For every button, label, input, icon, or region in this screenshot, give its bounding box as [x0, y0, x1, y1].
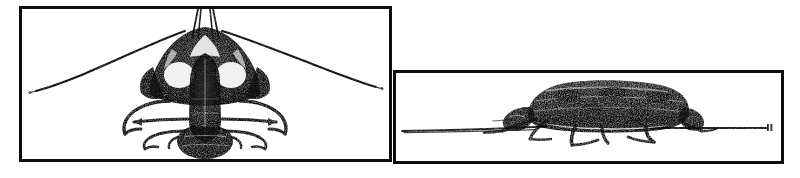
- elytra-lateral-group: [528, 80, 689, 132]
- panel-dorsal-view: Dorsal view panel: [19, 6, 392, 162]
- beetle-lateral-illustration: [396, 73, 781, 161]
- beetle-dorsal-illustration: [22, 9, 389, 159]
- panel-lateral-label: Lateral view panel: [396, 161, 397, 162]
- panel-dorsal-label: Dorsal view panel: [22, 159, 23, 160]
- figure-plate: Dorsal view panel: [0, 0, 800, 178]
- panel-lateral-view: Lateral view panel: [393, 70, 784, 164]
